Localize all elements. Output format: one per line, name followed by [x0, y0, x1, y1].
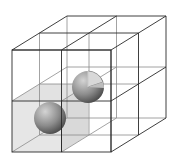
- sphere-back-upper: [72, 71, 104, 103]
- lattice-diagram: [0, 0, 180, 156]
- lattice-svg: [0, 0, 180, 156]
